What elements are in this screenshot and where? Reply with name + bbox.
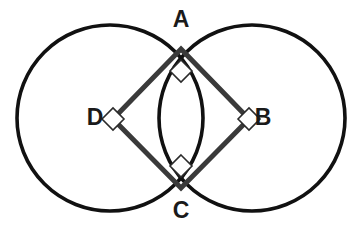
figure-canvas: A B C D [0, 0, 361, 241]
vertex-label-a: A [173, 6, 190, 32]
vertex-label-b: B [255, 104, 272, 130]
vertex-label-c: C [173, 197, 190, 223]
geometry-figure: A B C D [0, 0, 361, 241]
vertex-label-d: D [87, 104, 104, 130]
